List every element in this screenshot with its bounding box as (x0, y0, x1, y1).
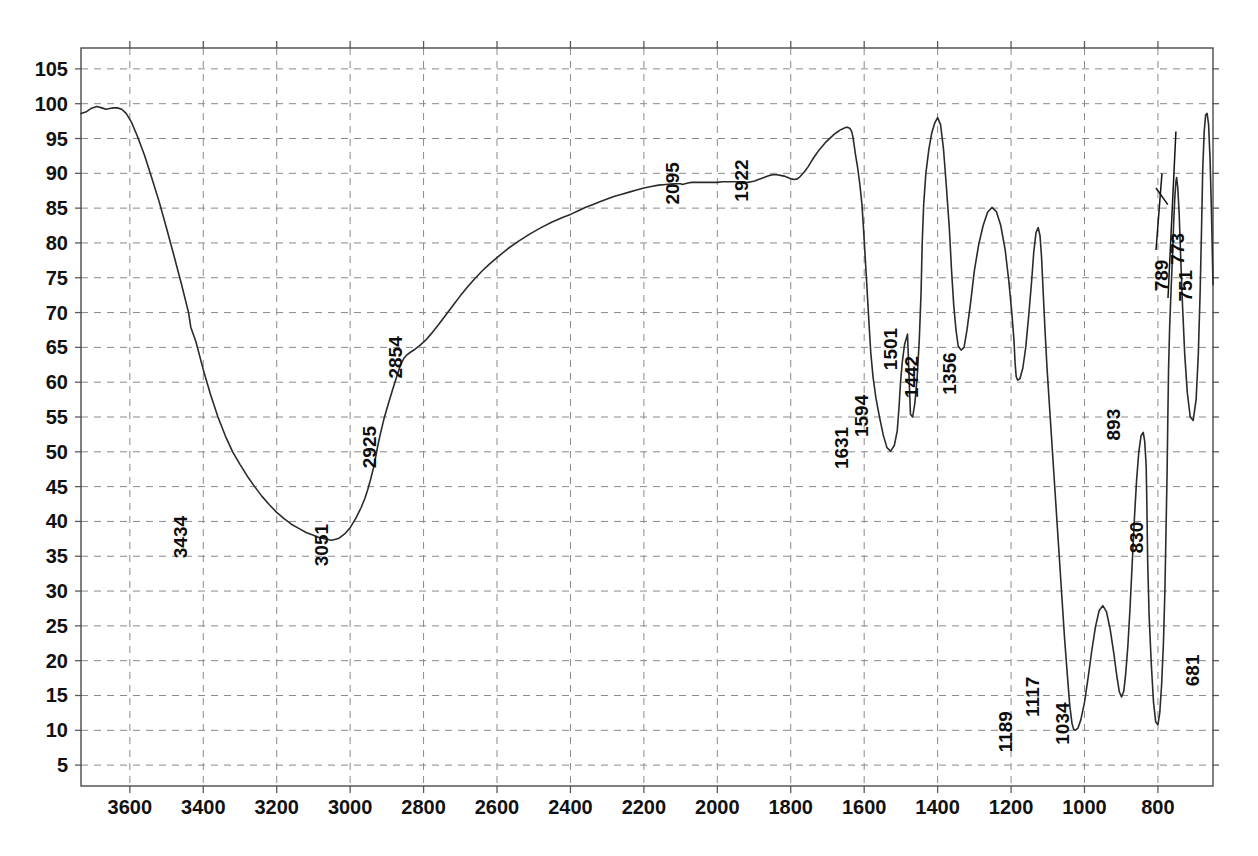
y-tick-label: 45 (46, 476, 68, 498)
y-tick-label: 105 (35, 58, 68, 80)
peak-label: 1356 (939, 352, 960, 394)
peak-label: 893 (1103, 409, 1124, 441)
y-tick-label: 30 (46, 580, 68, 602)
x-tick-label: 3000 (328, 796, 373, 818)
y-tick-label: 75 (46, 267, 68, 289)
y-tick-label: 60 (46, 371, 68, 393)
x-tick-label: 2600 (475, 796, 520, 818)
y-tick-label: 40 (46, 510, 68, 532)
x-tick-label: 1800 (768, 796, 813, 818)
x-tick-label: 2800 (401, 796, 446, 818)
peak-label: 1117 (1022, 677, 1043, 717)
y-tick-label: 65 (46, 336, 68, 358)
peak-annotations: 3434305129252854209519221631159415011442… (170, 132, 1203, 753)
y-tick-label: 25 (46, 615, 68, 637)
y-tick-label: 55 (46, 406, 68, 428)
x-tick-label: 2400 (548, 796, 593, 818)
y-tick-label: 5 (57, 754, 68, 776)
x-tick-label: 800 (1141, 796, 1174, 818)
y-tick-label: 35 (46, 545, 68, 567)
y-tick-label: 15 (46, 684, 68, 706)
x-tick-label: 1600 (842, 796, 887, 818)
peak-label: 681 (1182, 654, 1203, 686)
y-tick-label: 20 (46, 650, 68, 672)
x-axis-tick-labels: 3600340032003000280026002400220020001800… (108, 796, 1175, 818)
y-tick-label: 70 (46, 302, 68, 324)
peak-leader-line (1156, 173, 1162, 250)
peak-label: 1189 (995, 711, 1016, 752)
x-tick-label: 2200 (622, 796, 667, 818)
y-tick-label: 95 (46, 128, 68, 150)
grid-lines (81, 48, 1213, 786)
peak-label: 1501 (880, 327, 901, 370)
peak-label: 2925 (359, 426, 380, 469)
y-tick-label: 10 (46, 719, 68, 741)
spectrum-plot-area: 5101520253035404550556065707580859095100… (0, 0, 1258, 856)
peak-label: 3051 (311, 524, 332, 567)
x-tick-label: 1000 (1062, 796, 1107, 818)
y-axis-tick-labels: 5101520253035404550556065707580859095100… (35, 58, 68, 776)
peak-label: 1442 (901, 356, 922, 398)
spectrum-trace (81, 106, 1213, 730)
x-tick-label: 1400 (915, 796, 960, 818)
y-tick-label: 50 (46, 441, 68, 463)
peak-label: 1594 (851, 394, 872, 437)
x-tick-label: 3200 (254, 796, 299, 818)
peak-label: 1034 (1052, 702, 1073, 745)
peak-label: 751 (1175, 269, 1196, 301)
peak-label: 2854 (385, 336, 406, 379)
y-tick-label: 85 (46, 197, 68, 219)
x-tick-label: 3400 (181, 796, 226, 818)
x-tick-label: 1200 (989, 796, 1034, 818)
peak-label: 1922 (731, 159, 752, 201)
peak-label: 1631 (831, 426, 852, 469)
peak-label: 3434 (170, 516, 191, 559)
y-tick-label: 100 (35, 93, 68, 115)
peak-label: 830 (1126, 522, 1147, 554)
y-tick-label: 90 (46, 162, 68, 184)
y-tick-label: 80 (46, 232, 68, 254)
ir-spectrum-chart: 5101520253035404550556065707580859095100… (0, 0, 1258, 856)
peak-label: 2095 (662, 162, 683, 205)
x-tick-label: 2000 (695, 796, 740, 818)
x-tick-label: 3600 (108, 796, 153, 818)
